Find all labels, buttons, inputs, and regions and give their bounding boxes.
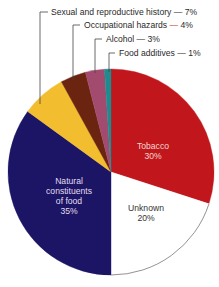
leader-line-alcohol xyxy=(95,39,102,73)
leader-line-sexual-and-reproductive-history xyxy=(40,12,48,104)
callout-label-occupational-hazards: Occupational hazards — 4% xyxy=(84,20,193,30)
pie-chart: Sexual and reproductive history — 7%Occu… xyxy=(0,0,219,287)
callout-label-alcohol: Alcohol — 3% xyxy=(106,34,160,44)
callout-label-sexual-and-reproductive-history: Sexual and reproductive history — 7% xyxy=(51,7,198,17)
pie-slices xyxy=(8,69,214,275)
leader-line-occupational-hazards xyxy=(73,25,80,80)
callout-label-food-additives: Food additives — 1% xyxy=(119,48,201,58)
